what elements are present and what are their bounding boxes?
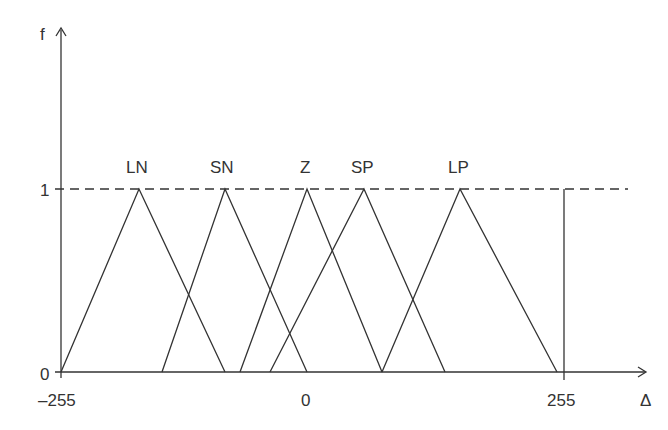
label-Z: Z	[300, 158, 310, 177]
series-SN	[162, 189, 307, 372]
series-Z	[240, 189, 382, 372]
y-tick-1: 1	[40, 181, 49, 200]
label-SP: SP	[351, 158, 374, 177]
x-label: Δ	[640, 391, 651, 410]
x-tick-0: 0	[301, 391, 310, 410]
x-tick-min: –255	[38, 391, 76, 410]
series-LP	[382, 189, 557, 372]
label-LP: LP	[448, 158, 469, 177]
series-LN	[61, 189, 225, 372]
series-SP	[270, 189, 445, 372]
label-SN: SN	[210, 158, 234, 177]
x-tick-max: 255	[547, 391, 575, 410]
label-LN: LN	[126, 158, 148, 177]
y-tick-0: 0	[40, 365, 49, 384]
y-label: f	[40, 25, 45, 44]
membership-chart: f 1 0 –255 0 255 Δ LN SN Z SP LP	[0, 0, 668, 430]
